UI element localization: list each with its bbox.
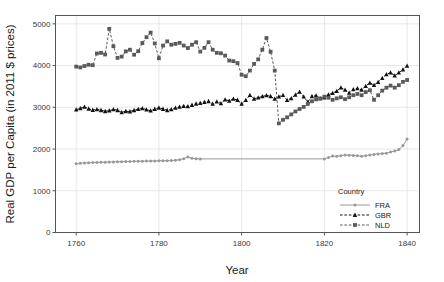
data-point bbox=[174, 42, 178, 46]
data-point bbox=[372, 98, 376, 102]
data-point bbox=[174, 159, 177, 162]
data-point bbox=[223, 54, 227, 58]
data-point bbox=[335, 155, 338, 158]
data-point bbox=[124, 160, 127, 163]
data-point bbox=[87, 63, 91, 67]
data-point bbox=[310, 99, 314, 103]
data-point bbox=[406, 138, 409, 141]
data-point bbox=[368, 153, 371, 156]
data-point bbox=[178, 41, 182, 45]
x-tick-label: 1800 bbox=[233, 239, 251, 248]
y-tick-label: 2000 bbox=[33, 145, 51, 154]
data-point bbox=[194, 40, 198, 44]
data-point bbox=[157, 159, 160, 162]
data-point bbox=[219, 51, 223, 55]
data-point bbox=[169, 43, 173, 47]
data-point bbox=[153, 159, 156, 162]
x-tick-label: 1820 bbox=[315, 239, 333, 248]
data-point bbox=[244, 74, 248, 78]
data-point bbox=[364, 90, 368, 94]
data-point bbox=[149, 159, 152, 162]
data-point bbox=[215, 51, 219, 55]
data-point bbox=[170, 159, 173, 162]
data-point bbox=[273, 69, 277, 73]
data-point bbox=[162, 159, 165, 162]
data-point bbox=[373, 153, 376, 156]
data-point bbox=[227, 59, 231, 63]
data-point bbox=[327, 156, 330, 159]
data-point bbox=[240, 73, 244, 77]
data-point bbox=[83, 64, 87, 68]
data-point bbox=[104, 161, 107, 164]
chart-container: 0100020003000400050001760178018001820184… bbox=[0, 0, 444, 282]
data-point bbox=[364, 154, 367, 157]
y-tick-label: 3000 bbox=[33, 103, 51, 112]
x-tick-label: 1840 bbox=[398, 239, 416, 248]
data-point bbox=[397, 83, 401, 87]
data-point bbox=[211, 48, 215, 52]
y-tick-label: 0 bbox=[46, 228, 51, 237]
data-point bbox=[265, 36, 269, 40]
data-point bbox=[207, 40, 211, 44]
data-point bbox=[165, 39, 169, 43]
data-point bbox=[133, 160, 136, 163]
data-point bbox=[83, 161, 86, 164]
data-point bbox=[385, 152, 388, 155]
data-point bbox=[79, 162, 82, 165]
data-point bbox=[269, 50, 273, 54]
data-point bbox=[186, 155, 189, 158]
data-point bbox=[360, 155, 363, 158]
legend-label-FRA: FRA bbox=[375, 201, 390, 210]
data-point bbox=[112, 44, 116, 48]
data-point bbox=[302, 105, 306, 109]
data-point bbox=[95, 52, 99, 56]
data-point bbox=[145, 35, 149, 39]
x-tick-label: 1780 bbox=[150, 239, 168, 248]
data-point bbox=[128, 160, 131, 163]
data-point bbox=[277, 121, 281, 125]
data-point bbox=[120, 55, 124, 59]
legend-label-NLD: NLD bbox=[375, 221, 391, 230]
data-point bbox=[252, 62, 256, 66]
data-point bbox=[116, 160, 119, 163]
data-point bbox=[132, 53, 136, 57]
data-point bbox=[314, 97, 318, 101]
data-point bbox=[401, 144, 404, 147]
data-point bbox=[74, 65, 78, 69]
data-point bbox=[116, 56, 120, 60]
data-point bbox=[124, 49, 128, 53]
data-point bbox=[186, 46, 190, 50]
y-tick-label: 1000 bbox=[33, 187, 51, 196]
data-point bbox=[149, 31, 153, 35]
data-point bbox=[327, 96, 331, 100]
data-point bbox=[178, 158, 181, 161]
data-point bbox=[103, 53, 107, 57]
data-point bbox=[360, 93, 364, 97]
data-point bbox=[107, 27, 111, 31]
data-point bbox=[199, 157, 202, 160]
data-point bbox=[356, 154, 359, 157]
data-point bbox=[120, 160, 123, 163]
data-point bbox=[397, 148, 400, 151]
data-point bbox=[393, 150, 396, 153]
data-point bbox=[322, 95, 326, 99]
data-point bbox=[108, 160, 111, 163]
data-point bbox=[285, 115, 289, 119]
data-point bbox=[331, 98, 335, 102]
data-point bbox=[401, 80, 405, 84]
data-point bbox=[182, 44, 186, 48]
data-point bbox=[344, 153, 347, 156]
data-point bbox=[351, 93, 355, 97]
data-point bbox=[339, 154, 342, 157]
data-point bbox=[343, 97, 347, 101]
x-axis-title: Year bbox=[225, 264, 248, 276]
data-point bbox=[136, 49, 140, 53]
data-point bbox=[203, 46, 207, 50]
data-point bbox=[389, 84, 393, 88]
data-point bbox=[95, 161, 98, 164]
data-point bbox=[281, 118, 285, 122]
data-point bbox=[335, 96, 339, 100]
data-point bbox=[91, 63, 95, 67]
data-point bbox=[91, 161, 94, 164]
data-point bbox=[348, 154, 351, 157]
